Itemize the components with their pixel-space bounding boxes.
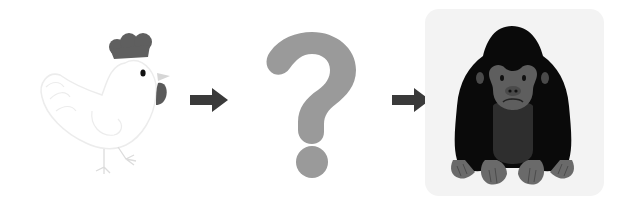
rooster-comb [109, 33, 152, 59]
illustration-canvas: Rooster Right [0, 0, 636, 213]
rooster-illustration: Rooster [30, 25, 180, 185]
rooster-wattle [156, 83, 167, 105]
rooster-beak [157, 73, 170, 81]
arrow-1: Right arrow [190, 88, 228, 112]
arrow-right-icon [190, 88, 228, 112]
gorilla-icon [445, 22, 580, 187]
question-mark-icon [258, 28, 360, 180]
gorilla-chest [493, 102, 533, 165]
gorilla-illustration: Gorilla [445, 22, 580, 187]
question-mark: ? [258, 28, 360, 180]
rooster-eye [140, 69, 145, 76]
rooster-icon [30, 25, 180, 185]
